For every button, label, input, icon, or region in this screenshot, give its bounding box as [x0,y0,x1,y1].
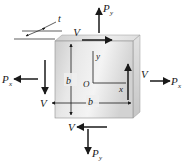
origin-label: O [83,79,90,89]
px-right-label: P [170,75,178,87]
height-label: b [66,75,71,86]
shear-left: V [40,60,48,109]
py-top-subscript: y [109,9,114,17]
v-bottom-label: V [68,121,76,133]
thickness-dimension: t [14,13,62,39]
py-bottom-label: P [91,147,99,159]
px-right-subscript: x [177,82,182,90]
force-right-normal: P x [150,75,182,90]
figure-canvas: t b b O x y P y V [0,0,185,164]
v-left-label: V [40,97,48,109]
force-top-normal: P y [99,2,114,33]
plate-right-face [133,35,140,118]
px-left-subscript: x [8,80,13,88]
thickness-label: t [58,13,61,24]
x-axis-label: x [118,84,123,94]
px-left-label: P [1,73,9,85]
mechanics-figure: t b b O x y P y V [0,0,185,164]
force-bottom-normal: P y [88,129,103,162]
force-left-normal: P x [1,73,38,88]
py-bottom-subscript: y [98,154,103,162]
width-label: b [88,96,93,107]
v-right-label: V [141,68,149,80]
py-top-label: P [102,2,110,14]
y-axis-label: y [95,51,100,61]
thickness-callout-line [42,22,56,29]
